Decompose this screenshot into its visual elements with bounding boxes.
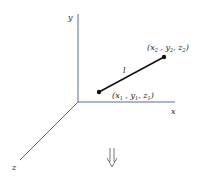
z-axis-label: z	[11, 163, 17, 172]
point-1-label: (x1 , y1, z1)	[112, 91, 154, 101]
double-arrow-down-icon	[107, 148, 117, 167]
y-axis-label: y	[67, 13, 73, 22]
point-1	[97, 90, 101, 94]
diagram: y x z l (x1 , y1, z1) (x2 , y2, z2)	[0, 0, 203, 185]
z-axis	[20, 102, 78, 160]
point-2-label: (x2 , y2, z2)	[147, 43, 189, 53]
segment-label: l	[123, 66, 126, 75]
point-2	[162, 55, 166, 59]
x-axis-label: x	[171, 107, 176, 116]
segment-line	[99, 57, 164, 92]
